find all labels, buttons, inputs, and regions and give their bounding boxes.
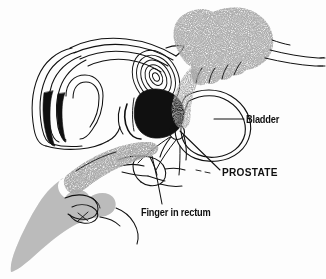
finger-in-rectum-label: Finger in rectum [141,207,211,218]
prostate-label: PROSTATE [222,167,278,179]
bladder-label: Bladder [246,114,279,125]
anatomical-diagram-svg [0,0,326,279]
medical-illustration: Bladder PROSTATE Finger in rectum [0,0,326,279]
